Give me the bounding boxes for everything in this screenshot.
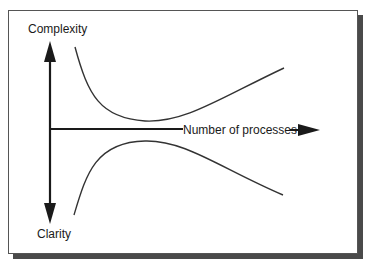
clarity-curve (74, 141, 283, 215)
up-arrow-icon (44, 41, 56, 62)
clarity-label: Clarity (37, 227, 71, 241)
complexity-label: Complexity (28, 22, 87, 36)
right-arrow-icon (298, 124, 320, 136)
number-of-processes-label: Number of processes (183, 123, 297, 137)
down-arrow-icon (44, 203, 56, 224)
complexity-curve (75, 47, 284, 121)
